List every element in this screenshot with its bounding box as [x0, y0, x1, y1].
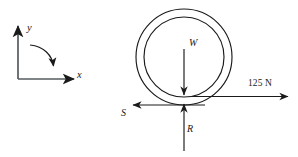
x-axis-label: x: [77, 70, 82, 81]
figure-canvas: y x W R S 125 N: [0, 0, 298, 157]
friction-force-label: S: [121, 108, 126, 118]
coordinate-axes-group: [18, 26, 74, 79]
weight-force-label: W: [189, 38, 197, 48]
normal-reaction-label: R: [187, 124, 193, 134]
force-vectors-group: [133, 49, 288, 151]
applied-force-label: 125 N: [248, 79, 272, 89]
rotation-arc-arrow: [30, 45, 54, 66]
y-axis-label: y: [27, 23, 32, 34]
